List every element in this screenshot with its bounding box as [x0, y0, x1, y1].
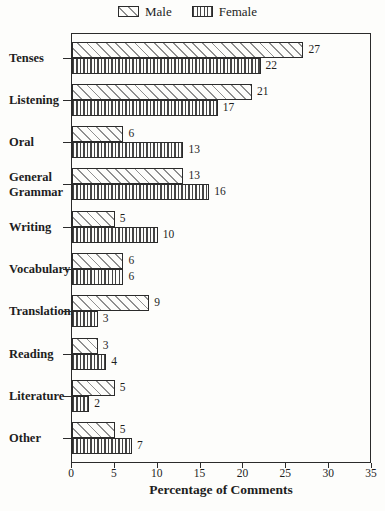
bar-male-tenses [72, 42, 303, 58]
y-axis-tick-tenses [63, 58, 71, 59]
bar-male-translation [72, 295, 149, 311]
bar-male-reading [72, 338, 98, 354]
value-label-male-tenses: 27 [308, 44, 320, 56]
x-axis-tick-label-10: 10 [151, 468, 163, 480]
value-label-female-oral: 13 [188, 144, 200, 156]
bar-male-listening [72, 84, 252, 100]
category-label-translation: Translation [9, 304, 71, 318]
legend-label-male: Male [145, 5, 172, 18]
female-vertical-hatch-swatch-icon [192, 6, 213, 17]
bar-female-tenses [72, 58, 261, 74]
x-axis-tick-label-20: 20 [237, 468, 249, 480]
y-axis-tick-literature [63, 396, 71, 397]
category-label-tenses: Tenses [9, 50, 71, 64]
value-label-female-reading: 4 [111, 356, 117, 368]
bar-female-writing [72, 227, 158, 243]
value-label-female-other: 7 [137, 440, 143, 452]
bar-male-general-grammar [72, 168, 183, 184]
legend-label-female: Female [219, 5, 257, 18]
x-axis-tick-label-15: 15 [194, 468, 206, 480]
bar-female-oral [72, 142, 183, 158]
bar-male-other [72, 422, 115, 438]
value-label-male-oral: 6 [128, 128, 134, 140]
x-axis-tick-label-35: 35 [365, 468, 377, 480]
value-label-female-general-grammar: 16 [214, 187, 226, 199]
bar-female-other [72, 438, 132, 454]
value-label-male-writing: 5 [120, 213, 126, 225]
bar-female-literature [72, 396, 89, 412]
value-label-male-reading: 3 [103, 340, 109, 352]
category-label-oral: Oral [9, 135, 71, 149]
category-label-reading: Reading [9, 346, 71, 360]
bar-female-reading [72, 354, 106, 370]
value-label-female-translation: 3 [103, 314, 109, 326]
bar-female-listening [72, 100, 218, 116]
category-label-other: Other [9, 431, 71, 445]
category-label-vocabulary: Vocabulary [9, 262, 71, 276]
bar-male-writing [72, 211, 115, 227]
value-label-female-listening: 17 [223, 102, 235, 114]
legend-item-female: Female [192, 5, 257, 18]
category-label-general-grammar: General Grammar [9, 170, 71, 199]
value-label-female-tenses: 22 [266, 60, 278, 72]
value-label-male-listening: 21 [257, 86, 269, 98]
value-label-female-vocabulary: 6 [128, 271, 134, 283]
category-label-writing: Writing [9, 220, 71, 234]
male-diagonal-hatch-swatch-icon [118, 6, 139, 17]
y-axis-tick-oral [63, 142, 71, 143]
bar-male-oral [72, 126, 123, 142]
y-axis-tick-translation [63, 311, 71, 312]
bar-female-vocabulary [72, 269, 123, 285]
value-label-male-general-grammar: 13 [188, 171, 200, 183]
x-axis-tick-label-25: 25 [280, 468, 292, 480]
y-axis-tick-writing [63, 227, 71, 228]
y-axis-tick-other [63, 438, 71, 439]
x-axis-tick-label-0: 0 [68, 468, 74, 480]
category-label-listening: Listening [9, 93, 71, 107]
y-axis-tick-reading [63, 354, 71, 355]
value-label-female-literature: 2 [94, 398, 100, 410]
x-axis-tick-label-30: 30 [322, 468, 334, 480]
bar-female-general-grammar [72, 184, 209, 200]
bar-male-literature [72, 380, 115, 396]
x-axis-tick-label-5: 5 [111, 468, 117, 480]
y-axis-tick-vocabulary [63, 269, 71, 270]
bar-female-translation [72, 311, 98, 327]
legend-item-male: Male [118, 5, 172, 18]
value-label-male-translation: 9 [154, 298, 160, 310]
value-label-female-writing: 10 [163, 229, 175, 241]
value-label-male-literature: 5 [120, 382, 126, 394]
bar-male-vocabulary [72, 253, 123, 269]
y-axis-tick-listening [63, 100, 71, 101]
x-axis-title: Percentage of Comments [71, 482, 371, 498]
value-label-male-other: 5 [120, 424, 126, 436]
value-label-male-vocabulary: 6 [128, 255, 134, 267]
legend: Male Female [0, 5, 375, 18]
y-axis-tick-general-grammar [63, 184, 71, 185]
category-label-literature: Literature [9, 389, 71, 403]
